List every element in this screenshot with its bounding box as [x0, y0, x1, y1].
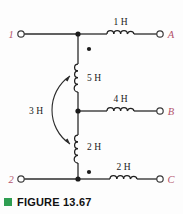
- figure-caption: FIGURE 13.67: [4, 196, 92, 208]
- inductor-4h-label: 4 H: [114, 94, 128, 104]
- inductor-1h-label: 1 H: [114, 17, 128, 27]
- terminal-b-label: B: [168, 106, 175, 117]
- node-bottom: [75, 176, 80, 181]
- terminal-a-ring[interactable]: [157, 31, 163, 37]
- inductor-5h-symbol: [74, 64, 78, 92]
- node-middle: [75, 108, 80, 113]
- terminal-2-ring[interactable]: [18, 176, 24, 182]
- polarity-dot-2h-vertical: [87, 170, 91, 174]
- inductor-1h-symbol: [107, 31, 134, 34]
- inductor-2h-bottom-label: 2 H: [117, 162, 131, 172]
- terminal-1-ring[interactable]: [18, 31, 24, 37]
- inductor-2h-vertical-label: 2 H: [87, 142, 101, 152]
- terminal-b-ring[interactable]: [157, 108, 163, 114]
- circuit-diagram: 1 H 4 H 2 H: [0, 0, 183, 192]
- inductor-5h-label: 5 H: [87, 73, 101, 83]
- terminal-2-label: 2: [8, 174, 14, 185]
- terminal-c-ring[interactable]: [157, 176, 163, 182]
- terminal-1-label: 1: [8, 29, 13, 40]
- polarity-dot-5h: [87, 47, 91, 51]
- mutual-coupling-label: 3 H: [29, 106, 43, 116]
- arrowhead-up: [65, 76, 70, 82]
- node-top: [75, 31, 80, 36]
- figure-caption-text: FIGURE 13.67: [17, 196, 92, 208]
- terminal-c-label: C: [167, 174, 175, 185]
- figure-container: 1 H 4 H 2 H: [0, 0, 183, 214]
- inductor-2h-bottom-symbol: [110, 176, 137, 179]
- terminal-a-label: A: [167, 29, 175, 40]
- arrowhead-down: [65, 138, 70, 144]
- caption-square-icon: [4, 198, 12, 206]
- inductor-4h-symbol: [107, 108, 134, 111]
- inductor-2h-vertical-symbol: [74, 135, 78, 163]
- mutual-coupling-arrow: [52, 76, 70, 144]
